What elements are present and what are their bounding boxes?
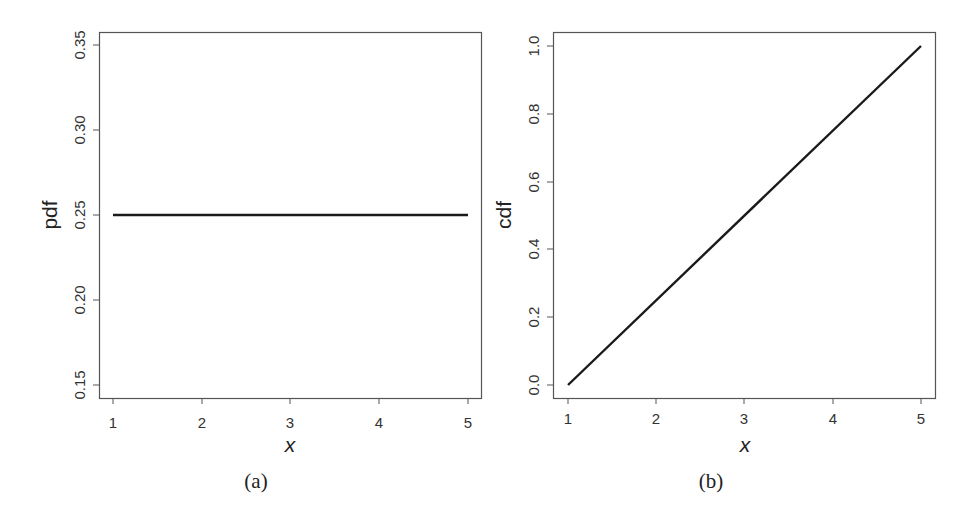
y-axis-b <box>547 46 553 385</box>
caption-a: (a) <box>244 469 267 493</box>
panel-a: 0.35 0.30 0.25 0.20 0.15 1 2 3 4 5 x pdf… <box>38 30 482 493</box>
x-axis-title-b: x <box>739 433 752 456</box>
y-tick-label: 0.20 <box>71 285 88 314</box>
y-tick-label: 0.6 <box>525 172 542 193</box>
y-tick-label: 0.30 <box>71 115 88 144</box>
caption-b: (b) <box>699 469 724 493</box>
x-tick-label: 5 <box>917 410 925 427</box>
x-axis-title-a: x <box>284 433 297 456</box>
panel-b: 1.0 0.8 0.6 0.4 0.2 0.0 1 2 3 4 5 x cdf … <box>492 33 936 494</box>
y-tick-label: 0.2 <box>525 307 542 328</box>
y-tick-label: 0.15 <box>71 370 88 399</box>
y-tick-label: 0.35 <box>71 30 88 59</box>
y-axis-title-a: pdf <box>38 200 61 229</box>
y-tick-label: 1.0 <box>525 36 542 57</box>
x-tick-label: 3 <box>286 414 294 431</box>
y-tick-label: 0.25 <box>71 200 88 229</box>
x-tick-label: 4 <box>829 410 837 427</box>
y-axis-a <box>93 45 99 385</box>
x-tick-label: 4 <box>375 414 383 431</box>
x-tick-label: 3 <box>740 410 748 427</box>
x-tick-label: 5 <box>464 414 472 431</box>
y-axis-title-b: cdf <box>492 201 515 229</box>
y-tick-label: 0.8 <box>525 104 542 125</box>
figure: 0.35 0.30 0.25 0.20 0.15 1 2 3 4 5 x pdf… <box>0 0 970 513</box>
x-tick-label: 2 <box>652 410 660 427</box>
y-tick-label: 0.4 <box>525 239 542 260</box>
x-tick-label: 2 <box>198 414 206 431</box>
x-tick-label: 1 <box>109 414 117 431</box>
x-tick-label: 1 <box>564 410 572 427</box>
y-tick-label: 0.0 <box>525 375 542 396</box>
cdf-line <box>568 46 921 385</box>
